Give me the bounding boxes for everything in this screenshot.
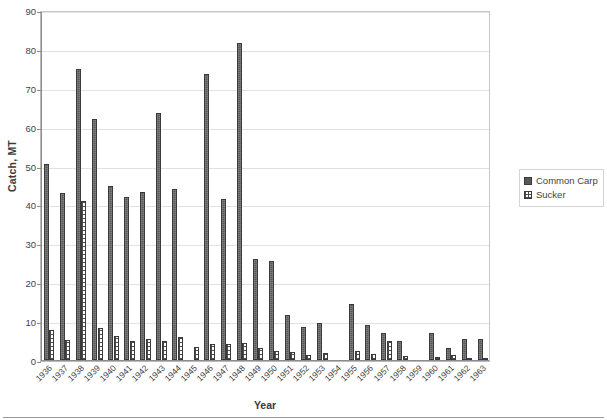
bar-group [478, 10, 489, 360]
x-tick-label: 1942 [130, 363, 150, 383]
bar-common-carp [269, 261, 274, 360]
bar-sucker [162, 341, 167, 360]
footer-divider [3, 417, 604, 418]
y-tick-label: 10 [2, 317, 36, 328]
x-tick-label: 1946 [194, 363, 214, 383]
legend-label-common-carp: Common Carp [536, 175, 598, 186]
bar-sucker [210, 344, 215, 360]
bar-group [92, 10, 103, 360]
y-tick-label: 60 [2, 122, 36, 133]
bar-common-carp [156, 113, 161, 360]
bar-group [333, 10, 344, 360]
y-tickmark [37, 129, 41, 130]
bars-layer [41, 12, 489, 361]
bar-sucker [258, 348, 263, 360]
bar-sucker [178, 337, 183, 360]
bar-sucker [323, 353, 328, 360]
y-tickmark [37, 284, 41, 285]
bar-group [76, 10, 87, 360]
bar-common-carp [44, 164, 49, 360]
bar-common-carp [140, 192, 145, 360]
bar-common-carp [317, 323, 322, 360]
bar-sucker [114, 336, 119, 360]
chart-legend: Common Carp Sucker [519, 169, 604, 207]
bar-group [429, 10, 440, 360]
bar-group [204, 10, 215, 360]
bar-group [462, 10, 473, 360]
bar-sucker [65, 340, 70, 360]
bar-group [253, 10, 264, 360]
bar-group [188, 10, 199, 360]
bar-sucker [130, 341, 135, 360]
bar-group [44, 10, 55, 360]
bar-group [221, 10, 232, 360]
bar-common-carp [349, 304, 354, 360]
bar-common-carp [76, 69, 81, 360]
bar-group [381, 10, 392, 360]
bar-common-carp [124, 197, 129, 360]
bar-common-carp [237, 43, 242, 360]
bar-group [108, 10, 119, 360]
bar-common-carp [365, 325, 370, 360]
bar-group [140, 10, 151, 360]
bar-sucker [387, 341, 392, 360]
y-tickmark [37, 168, 41, 169]
bar-sucker [226, 344, 231, 360]
bar-group [317, 10, 328, 360]
y-tick-label: 90 [2, 6, 36, 17]
bar-sucker [49, 330, 54, 360]
y-tickmark [37, 51, 41, 52]
bar-sucker [355, 351, 360, 360]
y-tickmark [37, 323, 41, 324]
bar-common-carp [204, 74, 209, 360]
chart-container: Catch, MT 0102030405060708090 1936193719… [0, 0, 607, 420]
y-tick-label: 0 [2, 356, 36, 367]
bar-common-carp [429, 333, 434, 360]
x-axis-line [41, 360, 489, 361]
legend-swatch-common-carp-icon [524, 177, 532, 185]
y-tick-label: 80 [2, 44, 36, 55]
bar-group [349, 10, 360, 360]
x-tick-label: 1958 [387, 363, 407, 383]
bar-common-carp [285, 315, 290, 360]
plot-area [40, 11, 490, 362]
bar-group [156, 10, 167, 360]
y-axis-line [41, 12, 42, 361]
bar-common-carp [172, 189, 177, 360]
y-tickmark [37, 90, 41, 91]
y-tickmark [37, 245, 41, 246]
x-tick-label: 1956 [355, 363, 375, 383]
x-tick-label: 1959 [403, 363, 423, 383]
bar-common-carp [301, 327, 306, 360]
bar-common-carp [381, 333, 386, 360]
legend-label-sucker: Sucker [536, 189, 566, 200]
x-tick-label: 1943 [146, 363, 166, 383]
bar-sucker [290, 352, 295, 360]
bar-group [413, 10, 424, 360]
bar-sucker [81, 201, 86, 360]
bar-sucker [194, 347, 199, 360]
bar-group [172, 10, 183, 360]
bar-common-carp [478, 339, 483, 360]
bar-common-carp [92, 119, 97, 360]
x-axis-title: Year [40, 399, 490, 411]
bar-group [397, 10, 408, 360]
bar-common-carp [60, 193, 65, 360]
bar-sucker [98, 328, 103, 360]
bar-group [124, 10, 135, 360]
bar-group [301, 10, 312, 360]
y-tick-label: 50 [2, 161, 36, 172]
bar-group [237, 10, 248, 360]
y-tick-label: 30 [2, 239, 36, 250]
bar-group [365, 10, 376, 360]
x-tick-label: 1963 [468, 363, 488, 383]
x-tick-label: 1944 [162, 363, 182, 383]
bar-common-carp [108, 186, 113, 360]
legend-item-sucker: Sucker [524, 188, 598, 201]
y-axis-tick-labels: 0102030405060708090 [0, 0, 36, 420]
x-tick-label: 1945 [178, 363, 198, 383]
bar-sucker [146, 339, 151, 360]
y-tickmark [37, 206, 41, 207]
x-tick-label: 1960 [419, 363, 439, 383]
bar-group [60, 10, 71, 360]
